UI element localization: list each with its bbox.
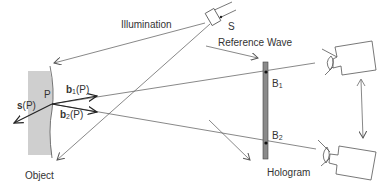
B1-label: B1: [272, 79, 283, 89]
reference-wave-label: Reference Wave: [218, 38, 292, 48]
hologram-interferometry-diagram: [0, 0, 391, 192]
diffracted-ray: [209, 120, 250, 160]
b1-label: b1(P): [66, 85, 89, 95]
camera-move-arrow: [361, 80, 363, 138]
object-label: Object: [25, 171, 54, 181]
hologram-label: Hologram: [267, 168, 310, 178]
point-P-label: P: [44, 90, 51, 100]
object-surface: [28, 71, 53, 155]
source-label: S: [228, 22, 235, 32]
point-B2: [264, 141, 267, 144]
point-B1: [264, 70, 267, 73]
b2-label: b2(P): [60, 110, 83, 120]
b1-vector: [52, 96, 97, 104]
illumination-label: Illumination: [121, 20, 172, 30]
B2-label: B2: [272, 131, 283, 141]
camera-bottom: [318, 140, 376, 180]
camera-top: [322, 41, 376, 75]
s-label: s(P): [17, 101, 36, 111]
